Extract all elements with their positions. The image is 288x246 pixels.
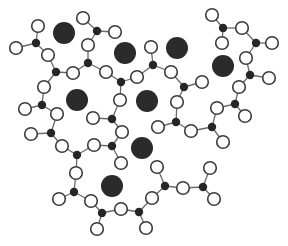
cation-atom xyxy=(114,42,136,64)
ligand-atom xyxy=(217,136,230,149)
ligand-atom xyxy=(82,39,95,52)
center-atom xyxy=(38,101,46,109)
ligand-atom xyxy=(263,72,276,85)
ligand-atom xyxy=(165,66,178,79)
cation-atom xyxy=(101,175,123,197)
ligand-atom xyxy=(85,195,98,208)
ligand-atom xyxy=(56,140,69,153)
ligand-atom xyxy=(70,167,83,180)
ligand-atom xyxy=(51,108,64,121)
ligand-atom xyxy=(266,37,279,50)
center-atom xyxy=(84,59,92,67)
center-atom xyxy=(108,115,116,123)
ligand-atom xyxy=(115,157,128,170)
ligand-atom xyxy=(77,12,90,25)
ligand-atom xyxy=(116,126,129,139)
ligand-atom xyxy=(32,20,45,33)
ligand-atom xyxy=(140,222,153,235)
ligand-atom xyxy=(53,193,66,206)
ligand-atom xyxy=(10,42,23,55)
ligand-atom xyxy=(145,41,158,54)
cation-atom xyxy=(212,55,234,77)
center-atom xyxy=(199,183,207,191)
network-diagram xyxy=(0,0,288,246)
ligand-atom xyxy=(42,49,55,62)
ligand-atom xyxy=(177,182,190,195)
ligand-atom xyxy=(216,37,229,50)
center-atom xyxy=(208,123,216,131)
ligand-atom xyxy=(87,112,100,125)
cation-atom xyxy=(136,90,158,112)
cation-atom xyxy=(66,89,88,111)
cation-atom xyxy=(131,137,153,159)
center-atom xyxy=(149,61,157,69)
ligand-atom xyxy=(239,110,252,123)
ligand-atom xyxy=(196,76,209,89)
ligand-atom xyxy=(19,103,32,116)
center-atom xyxy=(93,27,101,35)
ligand-atom xyxy=(88,139,101,152)
ligand-atom xyxy=(151,161,164,174)
center-atom xyxy=(32,39,40,47)
ligand-atom xyxy=(236,22,249,35)
ligand-atom xyxy=(208,193,221,206)
ligand-atom xyxy=(206,9,219,22)
ligand-atom xyxy=(38,81,51,94)
ligand-atom xyxy=(91,223,104,236)
center-atom xyxy=(231,100,239,108)
ligand-atom xyxy=(240,52,253,65)
ligand-atom xyxy=(115,203,128,216)
ligand-atom xyxy=(171,96,184,109)
ligand-atom xyxy=(152,121,165,134)
center-atom xyxy=(47,129,55,137)
ligand-atom xyxy=(146,192,159,205)
center-atom xyxy=(161,182,169,190)
center-atom xyxy=(135,208,143,216)
cation-atom xyxy=(53,22,75,44)
ligand-atom xyxy=(185,125,198,138)
center-atom xyxy=(246,71,254,79)
ligand-atom xyxy=(100,66,113,79)
center-atom xyxy=(108,142,116,150)
center-atom xyxy=(180,83,188,91)
center-atom xyxy=(73,151,81,159)
center-atom xyxy=(52,68,60,76)
center-atom xyxy=(219,24,227,32)
center-atom xyxy=(70,188,78,196)
cation-atom xyxy=(166,37,188,59)
center-atom xyxy=(172,118,180,126)
ligand-atom xyxy=(67,67,80,80)
ligand-atom xyxy=(25,128,38,141)
ligand-atom xyxy=(233,81,246,94)
center-atom xyxy=(98,209,106,217)
ligand-atom xyxy=(109,26,122,39)
ligand-atom xyxy=(204,162,217,175)
ligand-atom xyxy=(131,71,144,84)
ligand-atom xyxy=(211,102,224,115)
ligand-atom xyxy=(114,94,127,107)
center-atom xyxy=(252,39,260,47)
center-atom xyxy=(117,78,125,86)
